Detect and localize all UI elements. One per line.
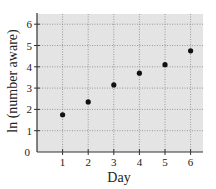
x-axis-title: Day: [107, 170, 130, 185]
data-point: [60, 112, 65, 117]
x-tick-label: 5: [162, 156, 168, 168]
data-point: [86, 99, 91, 104]
y-axis-title: ln (number aware): [5, 29, 21, 133]
y-tick-label: 0: [25, 146, 31, 158]
x-tick-label: 1: [60, 156, 66, 168]
plot-area: [37, 14, 203, 152]
x-tick-label: 3: [111, 156, 117, 168]
y-tick-label: 2: [27, 103, 33, 115]
y-tick-label: 5: [27, 40, 33, 52]
data-point: [162, 62, 167, 67]
y-tick-label: 4: [27, 61, 33, 73]
y-tick-label: 3: [27, 82, 33, 94]
x-tick-label: 6: [188, 156, 194, 168]
x-tick-label: 2: [85, 156, 91, 168]
x-tick-label: 4: [137, 156, 143, 168]
data-point: [111, 82, 116, 87]
data-point: [137, 71, 142, 76]
y-tick-label: 6: [27, 18, 33, 30]
y-tick-label: 1: [27, 125, 33, 137]
scatter-chart: 1234560123456 Day ln (number aware): [0, 0, 216, 189]
data-point: [188, 48, 193, 53]
